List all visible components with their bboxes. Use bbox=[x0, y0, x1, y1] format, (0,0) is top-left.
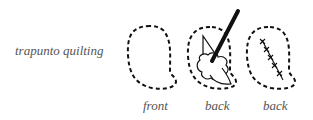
stuffing-stick-icon bbox=[212, 11, 238, 61]
caption-back-stitched: back bbox=[263, 98, 288, 114]
caption-front: front bbox=[143, 98, 168, 114]
caption-back-stuffing: back bbox=[205, 98, 230, 114]
cross-stitch-icon bbox=[260, 39, 283, 80]
front-outline-shape bbox=[128, 26, 176, 89]
